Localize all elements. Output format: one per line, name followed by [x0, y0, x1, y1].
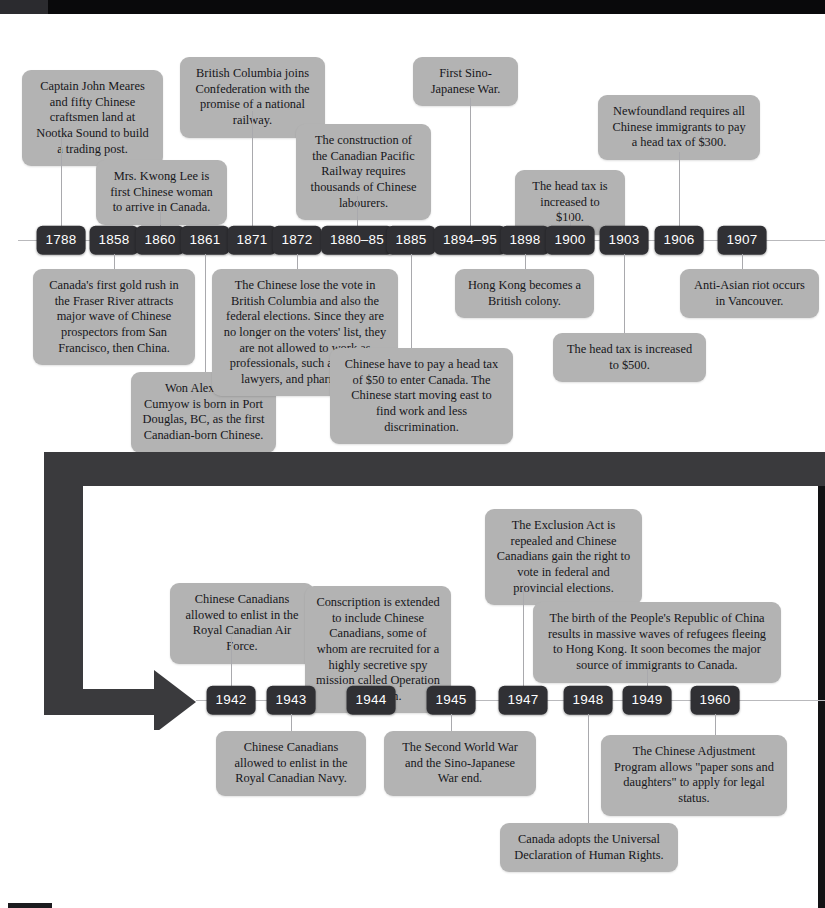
- stem-1942: [231, 636, 232, 687]
- stem-1860: [160, 212, 161, 227]
- callout-1788: Captain John Meares and fifty Chinese cr…: [22, 70, 163, 166]
- stem-1898: [525, 254, 526, 270]
- stem-1861: [205, 254, 206, 387]
- stem-1947: [523, 582, 524, 687]
- page-edge-right-band: [818, 452, 825, 908]
- page-edge-bottom-mark: [8, 903, 52, 908]
- page-edge-top-smudge: [0, 0, 48, 14]
- stem-1906: [679, 152, 680, 227]
- year-badge-1788[interactable]: 1788: [37, 226, 86, 255]
- callout-1947: The Exclusion Act is repealed and Chines…: [485, 509, 642, 605]
- callout-1960: The Chinese Adjustment Program allows "p…: [601, 735, 787, 816]
- year-badge-1960[interactable]: 1960: [691, 686, 740, 715]
- stem-1880-85: [357, 196, 358, 227]
- stem-1872: [297, 254, 298, 270]
- callout-1860: Mrs. Kwong Lee is first Chinese woman to…: [96, 160, 227, 225]
- year-badge-1885[interactable]: 1885: [387, 226, 436, 255]
- stem-1949: [647, 669, 648, 687]
- year-badge-1861[interactable]: 1861: [181, 226, 230, 255]
- callout-1907: Anti-Asian riot occurs in Vancouver.: [680, 269, 819, 318]
- stem-1788: [61, 137, 62, 227]
- stem-1871: [252, 111, 253, 227]
- stem-1894-95: [470, 98, 471, 227]
- stem-1944: [371, 672, 372, 687]
- stem-1885: [411, 254, 412, 362]
- year-badge-1858[interactable]: 1858: [90, 226, 139, 255]
- stem-1945: [451, 714, 452, 732]
- year-badge-1872[interactable]: 1872: [273, 226, 322, 255]
- year-badge-1948[interactable]: 1948: [564, 686, 613, 715]
- callout-1949: The birth of the People's Republic of Ch…: [533, 602, 781, 683]
- callout-1880-85: The construction of the Canadian Pacific…: [296, 124, 431, 220]
- year-badge-1943[interactable]: 1943: [267, 686, 316, 715]
- callout-1948: Canada adopts the Universal Declaration …: [500, 823, 678, 872]
- year-badge-1898[interactable]: 1898: [501, 226, 550, 255]
- callout-1943: Chinese Canadians allowed to enlist in t…: [216, 731, 366, 796]
- year-badge-1945[interactable]: 1945: [427, 686, 476, 715]
- callout-1942: Chinese Canadians allowed to enlist in t…: [170, 583, 314, 664]
- callout-1898: Hong Kong becomes a British colony.: [455, 269, 594, 318]
- year-badge-1900[interactable]: 1900: [546, 226, 595, 255]
- year-badge-1947[interactable]: 1947: [499, 686, 548, 715]
- stem-1903: [624, 254, 625, 334]
- callout-1903: The head tax is increased to $500.: [553, 333, 706, 382]
- stem-1900: [570, 212, 571, 227]
- page-edge-top-band: [0, 0, 825, 14]
- year-badge-1860[interactable]: 1860: [136, 226, 185, 255]
- callout-1885: Chinese have to pay a head tax of $50 to…: [330, 348, 513, 444]
- year-badge-1894-95[interactable]: 1894–95: [434, 226, 506, 255]
- callout-1945: The Second World War and the Sino-Japane…: [384, 731, 536, 796]
- year-badge-1880-85[interactable]: 1880–85: [321, 226, 393, 255]
- year-badge-1871[interactable]: 1871: [228, 226, 277, 255]
- year-badge-1942[interactable]: 1942: [207, 686, 256, 715]
- callout-1894-95: First Sino-Japanese War.: [413, 57, 518, 106]
- year-badge-1944[interactable]: 1944: [347, 686, 396, 715]
- year-badge-1949[interactable]: 1949: [623, 686, 672, 715]
- stem-1907: [742, 254, 743, 270]
- stem-1943: [291, 714, 292, 732]
- stem-1858: [114, 254, 115, 270]
- stem-1960: [715, 714, 716, 736]
- year-badge-1906[interactable]: 1906: [655, 226, 704, 255]
- year-badge-1903[interactable]: 1903: [600, 226, 649, 255]
- year-badge-1907[interactable]: 1907: [718, 226, 767, 255]
- callout-1906: Newfoundland requires all Chinese immigr…: [598, 95, 760, 160]
- callout-1858: Canada's first gold rush in the Fraser R…: [33, 269, 195, 365]
- stem-1948: [588, 714, 589, 824]
